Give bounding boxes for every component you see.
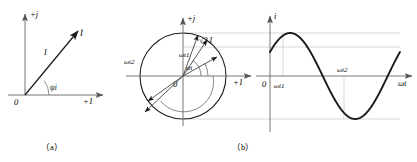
panel-a-phasor-label: İ: [79, 28, 84, 38]
waveform-origin-label: 0: [262, 79, 267, 89]
phasor-at-wt2-lower: [145, 76, 183, 112]
panel-b-waveform: i ωt 0 ωt1 ωt2 （b）: [232, 11, 412, 152]
panel-b-axis-horizontal-label: +1: [233, 77, 243, 87]
angle-label-wt2: ωt2: [124, 58, 135, 66]
waveform-axis-horizontal-label: ωt: [398, 78, 407, 88]
panel-b-axis-vertical-label: +j: [187, 13, 196, 23]
radius-amplitude-label: √2 I: [199, 36, 212, 45]
phasor-at-wt2: [148, 76, 183, 101]
angle-arc-wt2: [161, 76, 214, 112]
waveform-axis-vertical-label: i: [274, 11, 277, 21]
panel-a-caption: （a）: [41, 142, 63, 152]
panel-a-angle-label: ψi: [50, 83, 57, 92]
panel-b-phasor-circle: +j +1 0 √2 I ψi ωt1 ωt2: [124, 13, 400, 126]
angle-arc-psi: [205, 63, 209, 76]
figure-container: +j +1 0 I İ ψi （a） +j +1 0: [0, 0, 417, 162]
panel-a-angle-arc: [44, 81, 49, 95]
panel-a-magnitude-label: I: [43, 48, 47, 57]
panel-a: +j +1 0 I İ ψi （a）: [8, 9, 103, 152]
angle-label-wt1: ωt1: [179, 51, 189, 59]
waveform-mark-wt2: ωt2: [337, 66, 348, 74]
phasor-and-waveform-figure: +j +1 0 I İ ψi （a） +j +1 0: [0, 0, 417, 162]
panel-a-axis-vertical-label: +j: [30, 9, 39, 19]
angle-label-psi: ψi: [186, 64, 192, 72]
panel-a-axis-horizontal-label: +1: [83, 96, 93, 106]
panel-a-origin-label: 0: [14, 97, 19, 107]
waveform-mark-wt1: ωt1: [274, 82, 284, 90]
panel-b-caption: （b）: [232, 142, 254, 152]
